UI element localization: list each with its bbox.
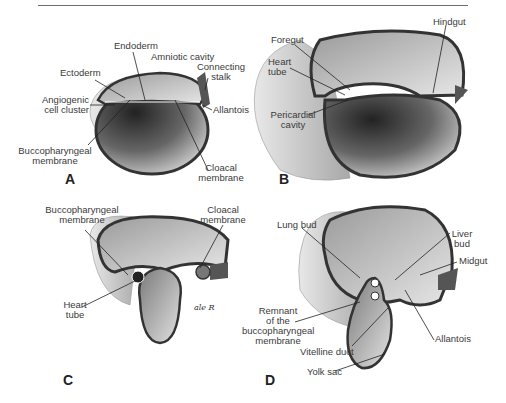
- panel-letter-d: D: [265, 372, 275, 388]
- label-vitelline-duct: Vitelline duct: [300, 347, 354, 357]
- panel-letter-c: C: [63, 372, 73, 388]
- panel-letter-a: A: [65, 171, 75, 187]
- label-cloacal-membrane-a: Cloacal membrane: [196, 163, 246, 183]
- label-ectoderm: Ectoderm: [60, 68, 101, 78]
- label-allantois-d: Allantois: [435, 334, 471, 344]
- label-lung-bud: Lung bud: [277, 220, 317, 230]
- label-midgut: Midgut: [459, 256, 488, 266]
- label-yolk-sac: Yolk sac: [307, 367, 342, 377]
- label-cloacal-membrane-c: Cloacal membrane: [198, 205, 248, 225]
- label-pericardial-cavity: Pericardial cavity: [268, 110, 318, 130]
- label-heart-tube-c: Heart tube: [60, 300, 90, 320]
- label-endoderm: Endoderm: [114, 41, 158, 51]
- label-liver-bud: Liver bud: [447, 229, 477, 249]
- label-foregut: Foregut: [271, 35, 304, 45]
- artist-signature: ale R: [194, 303, 215, 312]
- panel-b-drawing: [254, 31, 468, 180]
- label-remnant-buccopharyngeal-membrane: Remnant of the buccopharyngeal membrane: [242, 306, 314, 346]
- label-heart-tube-b: Heart tube: [268, 57, 291, 77]
- label-hindgut: Hindgut: [433, 17, 466, 27]
- label-buccopharyngeal-membrane-c: Buccopharyngeal membrane: [44, 205, 120, 225]
- label-buccopharyngeal-membrane-a: Buccopharyngeal membrane: [18, 146, 92, 166]
- label-connecting-stalk: Connecting stalk: [196, 62, 246, 82]
- panel-letter-b: B: [279, 171, 289, 187]
- panel-c-drawing: [90, 216, 228, 343]
- label-allantois-a: Allantois: [213, 105, 249, 115]
- label-angiogenic-cell-cluster: Angiogenic cell cluster: [34, 95, 89, 115]
